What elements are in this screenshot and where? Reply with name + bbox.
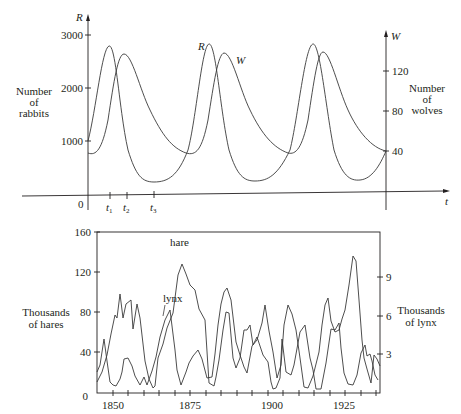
wolves-curve [88, 52, 386, 154]
lynx-tick-3: 3 [386, 348, 392, 360]
t-axis-arrow-icon [443, 189, 450, 193]
bottom-origin-label: 0 [83, 390, 89, 402]
lynx-series-label: lynx [163, 292, 183, 304]
hare-tick-40: 40 [80, 346, 92, 358]
lynx-tick-6: 6 [386, 310, 392, 322]
lynx-axis-title-line1: Thousands [397, 304, 445, 316]
top-origin-label: 0 [78, 198, 84, 210]
lynx-axis-title-line2: of lynx [405, 316, 437, 328]
w-tick-40: 40 [392, 145, 404, 157]
figure: R W t 0 3000 2000 1000 120 80 40 t1 t2 t… [0, 0, 461, 414]
r-tick-3000: 3000 [61, 29, 84, 41]
t2-label: t2 [123, 201, 130, 215]
hare-tick-80: 80 [80, 306, 92, 318]
hares-axis-title-line1: Thousands [22, 306, 70, 318]
w-tick-80: 80 [392, 105, 404, 117]
hare-tick-160: 160 [75, 226, 92, 238]
year-1900: 1900 [261, 399, 284, 411]
t3-label: t3 [150, 201, 157, 215]
r-axis-arrow-icon [86, 14, 90, 21]
hare-series-label: hare [170, 236, 189, 248]
t1-label: t1 [106, 201, 113, 215]
rabbits-axis-title-line3: rabbits [19, 107, 49, 119]
hares-axis-title-line2: of hares [28, 318, 63, 330]
w-axis-symbol: W [391, 30, 401, 42]
year-1850: 1850 [102, 399, 125, 411]
t-axis [22, 191, 444, 196]
year-1875: 1875 [179, 399, 202, 411]
hare-series [97, 264, 378, 389]
w-tick-120: 120 [392, 65, 409, 77]
r-tick-1000: 1000 [61, 135, 84, 147]
hare-tick-120: 120 [75, 266, 92, 278]
r-tick-2000: 2000 [61, 82, 84, 94]
plot-frame [97, 232, 380, 393]
w-axis-arrow-icon [384, 30, 388, 37]
lynx-series [97, 256, 380, 388]
top-chart: R W t 0 3000 2000 1000 120 80 40 t1 t2 t… [16, 11, 450, 215]
t-axis-symbol: t [445, 195, 449, 207]
lynx-label-leader [163, 305, 165, 316]
bottom-chart: 160 120 80 40 0 9 6 3 [22, 226, 445, 411]
wolves-axis-title-line3: wolves [411, 104, 442, 116]
w-curve-label: W [236, 54, 246, 66]
r-axis-symbol: R [75, 11, 83, 23]
year-1925: 1925 [333, 399, 356, 411]
lynx-tick-9: 9 [386, 271, 392, 283]
r-curve-label: R [197, 40, 205, 52]
